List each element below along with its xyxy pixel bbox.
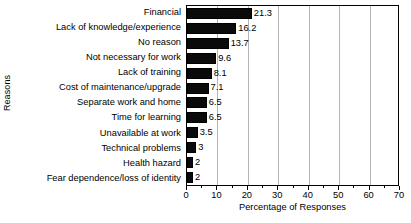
x-tick-label: 20 (242, 191, 252, 200)
bar (187, 38, 229, 49)
x-tick-minor (201, 186, 202, 188)
category-label: No reason (12, 35, 184, 50)
bar-value-label: 6.5 (209, 98, 222, 107)
category-label: Fear dependence/loss of identity (12, 171, 184, 186)
x-tick-minor (384, 186, 385, 188)
bar-value-label: 2 (195, 173, 200, 182)
plot-area: 21.316.213.79.68.17.16.56.53.5322 (186, 5, 399, 186)
bar-row: 2 (187, 170, 398, 185)
category-label: Lack of knowledge/experience (12, 20, 184, 35)
y-axis-title-text: Reasons (2, 75, 12, 111)
bar-value-label: 8.1 (214, 69, 227, 78)
bar (187, 157, 193, 168)
x-axis-title: Percentage of Responses (186, 202, 399, 212)
x-tick-minor (293, 186, 294, 188)
bar-value-label: 6.5 (209, 113, 222, 122)
x-tick-label: 50 (333, 191, 343, 200)
bar-value-label: 9.6 (218, 54, 231, 63)
category-label: Unavailable at work (12, 126, 184, 141)
bar-row: 3 (187, 140, 398, 155)
bar-value-label: 7.1 (211, 83, 224, 92)
x-tick-minor (323, 186, 324, 188)
category-label: Health hazard (12, 156, 184, 171)
x-tick-label: 30 (272, 191, 282, 200)
category-label: Cost of maintenance/upgrade (12, 80, 184, 95)
bars-layer: 21.316.213.79.68.17.16.56.53.5322 (187, 6, 398, 185)
x-tick-label: 60 (363, 191, 373, 200)
bar (187, 23, 236, 34)
x-tick-label: 40 (303, 191, 313, 200)
x-tick-minor (353, 186, 354, 188)
bar-row: 13.7 (187, 36, 398, 51)
category-axis-labels: FinancialLack of knowledge/experienceNo … (12, 5, 184, 186)
x-tick-label: 10 (211, 191, 221, 200)
x-tick-minor (232, 186, 233, 188)
bar (187, 97, 207, 108)
category-label: Time for learning (12, 111, 184, 126)
x-tick-minor (262, 186, 263, 188)
bar-value-label: 2 (195, 158, 200, 167)
x-tick-label: 70 (394, 191, 404, 200)
bar (187, 8, 252, 19)
bar-value-label: 3.5 (200, 128, 213, 137)
category-label: Lack of training (12, 65, 184, 80)
bar-row: 6.5 (187, 96, 398, 111)
bar-value-label: 16.2 (238, 24, 256, 33)
bar (187, 142, 196, 153)
bar (187, 112, 207, 123)
category-label: Financial (12, 5, 184, 20)
bar-row: 21.3 (187, 6, 398, 21)
bar-row: 3.5 (187, 125, 398, 140)
category-label: Separate work and home (12, 95, 184, 110)
bar (187, 172, 193, 183)
category-label: Technical problems (12, 141, 184, 156)
bar-row: 8.1 (187, 66, 398, 81)
bar-row: 6.5 (187, 110, 398, 125)
bar-row: 9.6 (187, 51, 398, 66)
bar (187, 83, 209, 94)
bar-value-label: 13.7 (231, 39, 249, 48)
bar-row: 7.1 (187, 81, 398, 96)
bar (187, 127, 198, 138)
bar (187, 53, 216, 64)
bar-chart: Reasons FinancialLack of knowledge/exper… (0, 0, 411, 223)
bar-value-label: 3 (198, 143, 203, 152)
category-label: Not necessary for work (12, 50, 184, 65)
bar-value-label: 21.3 (254, 9, 272, 18)
bar (187, 68, 212, 79)
x-tick-label: 0 (183, 191, 188, 200)
bar-row: 16.2 (187, 21, 398, 36)
bar-row: 2 (187, 155, 398, 170)
